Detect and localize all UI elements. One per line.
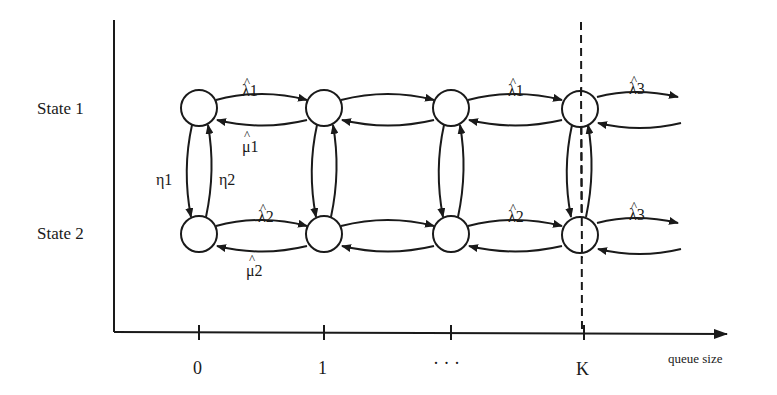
rate-mu1: μ1 [242, 138, 259, 156]
arrow-K-s2-to-s1 [586, 125, 592, 217]
arrow-1-s2-to-s1 [331, 125, 337, 217]
arrow-s2-K-to-prev [469, 246, 562, 252]
arrow-s2-from-beyond-K [598, 249, 681, 254]
tick-label-ellipsis: · · · [433, 353, 460, 373]
arrow-n-s1-to-s2 [439, 125, 444, 217]
threshold-dashed-line [581, 22, 582, 332]
markov-chain-diagram: State 1 State 2 0 1 · · · K queue size [0, 0, 777, 395]
arrow-K-s1-to-s2 [567, 125, 572, 217]
arrow-s1-1-to-0 [217, 120, 307, 126]
rate-lambda2-a: λ2 [258, 208, 274, 225]
rate-lambda1-a: λ1 [242, 82, 258, 99]
x-axis-label: queue size [668, 351, 723, 366]
arrow-s1-0-to-1 [216, 94, 307, 100]
arrow-s1-1-to-next [341, 94, 434, 100]
arrow-s1-K-to-prev [469, 120, 562, 126]
tick-label-1: 1 [318, 358, 327, 378]
rate-eta1: η1 [156, 171, 172, 189]
rate-lambda3-s1: λ3 [629, 80, 645, 97]
axes [114, 20, 727, 340]
arrow-1-s1-to-s2 [312, 125, 317, 217]
arrow-0-s1-to-s2 [187, 125, 192, 217]
node-s1-n [433, 90, 469, 126]
node-s1-0 [181, 90, 217, 126]
node-s2-n [433, 216, 469, 252]
rate-lambda1-b: λ1 [508, 82, 524, 99]
tick-label-K: K [576, 359, 589, 379]
arrow-0-s2-to-s1 [206, 125, 212, 217]
rate-lambda3-s2: λ3 [629, 206, 645, 223]
arrow-s1-from-beyond-K [598, 123, 681, 128]
node-s2-K [562, 217, 598, 253]
arrow-s2-1-to-0 [217, 246, 307, 252]
node-s1-1 [306, 90, 342, 126]
arrow-s1-next-to-1 [342, 120, 434, 126]
node-s2-0 [181, 216, 217, 252]
arrow-s2-1-to-next [341, 220, 434, 226]
tick-label-0: 0 [193, 358, 202, 378]
arrow-s2-next-to-1 [342, 246, 434, 252]
x-axis [114, 332, 727, 334]
rate-eta2: η2 [219, 171, 235, 189]
rate-mu2: μ2 [246, 262, 263, 280]
arrow-n-s2-to-s1 [458, 125, 464, 217]
row-label-state-1: State 1 [37, 99, 84, 118]
node-s1-K [562, 91, 598, 127]
rate-lambda2-b: λ2 [508, 208, 524, 225]
node-s2-1 [306, 216, 342, 252]
state-nodes [181, 90, 598, 253]
row-label-state-2: State 2 [37, 224, 84, 243]
